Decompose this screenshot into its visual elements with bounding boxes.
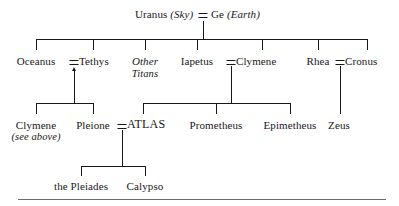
node-clymene-ref-note: (see above) [11, 131, 60, 143]
sibling-bar-oceanus-tethys [36, 103, 94, 104]
node-prometheus-label: Prometheus [190, 119, 243, 131]
node-iapetus: Iapetus [181, 55, 213, 67]
drop-line-epimetheus [290, 103, 291, 114]
node-atlas: ATLAS [127, 118, 165, 130]
node-ge-label: Ge [211, 8, 224, 20]
drop-line-pleione [93, 103, 94, 114]
node-ge-epithet: (Earth) [227, 8, 260, 20]
node-tethys: Tethys [79, 55, 109, 67]
node-clymene-label: Clymene [236, 55, 276, 67]
node-tethys-label: Tethys [79, 55, 109, 67]
node-epimetheus: Epimetheus [264, 119, 317, 131]
node-rhea-label: Rhea [306, 55, 329, 67]
sibling-bar-pleione-atlas [81, 166, 145, 167]
node-calypso: Calypso [127, 180, 164, 192]
descent-line-oceanus-tethys [74, 71, 75, 103]
drop-line-prometheus [216, 103, 217, 114]
node-ge: Ge (Earth) [211, 8, 260, 20]
descent-line-uranus-ge [203, 21, 204, 39]
node-iapetus-label: Iapetus [181, 55, 213, 67]
node-atlas-label: ATLAS [127, 117, 165, 131]
sibling-bar-iapetus-clymene [143, 103, 291, 104]
drop-line-other-titans [145, 39, 146, 50]
node-epimetheus-label: Epimetheus [264, 119, 317, 131]
node-oceanus: Oceanus [17, 55, 56, 67]
drop-line-atlas [143, 103, 144, 114]
drop-line-clymene-ref [36, 103, 37, 114]
node-prometheus: Prometheus [190, 119, 243, 131]
node-the-pleiades: the Pleiades [54, 180, 108, 192]
descent-line-pleione-atlas [122, 130, 123, 166]
node-clymene-ref-label: Clymene [16, 119, 56, 131]
descent-line-iapetus-clymene [231, 66, 232, 103]
node-zeus: Zeus [328, 119, 350, 131]
drop-line-the-pleiades [81, 166, 82, 176]
node-uranus-epithet: (Sky) [170, 8, 193, 20]
node-the-pleiades-label: the Pleiades [54, 180, 108, 192]
genealogy-diagram: Uranus (Sky) Ge (Earth) Oceanus Tethys O… [0, 0, 399, 206]
drop-line-tethys [93, 39, 94, 50]
node-clymene-ref: Clymene (see above) [11, 119, 60, 143]
drop-line-calypso [145, 166, 146, 176]
marriage-symbol-iapetus-clymene [227, 60, 236, 65]
node-cronus-label: Cronus [345, 55, 377, 67]
drop-line-iapetus [197, 39, 198, 50]
drop-line-clymene [262, 39, 263, 50]
node-pleione-label: Pleione [76, 119, 110, 131]
marriage-symbol-uranus-ge [199, 13, 208, 18]
node-clymene: Clymene [236, 55, 276, 67]
node-other-titans-label: Other [132, 55, 158, 67]
bottom-rule [18, 199, 386, 200]
marriage-symbol-pleione-atlas [118, 124, 127, 129]
node-uranus: Uranus (Sky) [135, 8, 193, 20]
marriage-symbol-rhea-cronus [336, 60, 345, 65]
node-other-titans-label-line2: Titans [132, 68, 158, 80]
drop-line-oceanus [36, 39, 37, 50]
drop-line-cronus [367, 39, 368, 50]
node-calypso-label: Calypso [127, 180, 164, 192]
node-zeus-label: Zeus [328, 119, 350, 131]
node-other-titans: Other Titans [132, 55, 158, 80]
node-uranus-label: Uranus [135, 8, 167, 20]
drop-line-rhea [318, 39, 319, 50]
descent-line-rhea-cronus [340, 66, 341, 114]
node-oceanus-label: Oceanus [17, 55, 56, 67]
node-cronus: Cronus [345, 55, 377, 67]
node-rhea: Rhea [306, 55, 329, 67]
marriage-symbol-oceanus-tethys [70, 60, 79, 65]
node-pleione: Pleione [76, 119, 110, 131]
